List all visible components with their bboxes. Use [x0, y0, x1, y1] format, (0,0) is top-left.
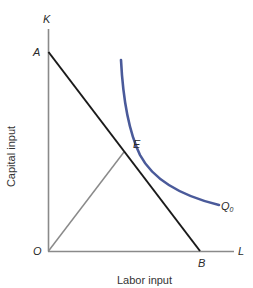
point-e-label: E	[133, 139, 140, 150]
x-axis-title: Labor input	[117, 275, 172, 286]
curve-q0-main: Q	[221, 200, 230, 212]
origin-label: O	[33, 246, 42, 257]
y-axis-title: Capital input	[6, 122, 17, 192]
x-axis-symbol: L	[238, 246, 244, 257]
expansion-ray	[49, 152, 125, 251]
isoquant-curve-q0	[121, 60, 219, 205]
point-a-label: A	[33, 47, 40, 58]
curve-q0-label: Q0	[221, 201, 233, 213]
y-axis-symbol: K	[43, 14, 50, 25]
point-b-label: B	[198, 258, 205, 269]
curve-q0-sub: 0	[230, 206, 234, 213]
